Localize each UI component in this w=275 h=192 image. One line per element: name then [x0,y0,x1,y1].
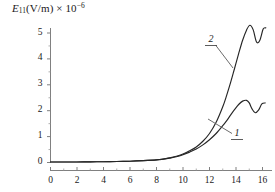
x-axis-tick-label: 12 [203,175,217,185]
x-axis-tick-label: 4 [97,175,111,185]
curve-label-2: 2 [206,33,216,44]
data-curves [51,25,266,162]
chart-figure: E11(V/m) × 10−6 012345 0246810121416 2 1 [0,0,275,192]
y-axis-tick-label: 2 [29,104,43,114]
curve-label-1: 1 [232,127,242,138]
x-axis-tick-label: 6 [123,175,137,185]
x-axis-tick-label: 10 [176,175,190,185]
y-axis-tick-label: 5 [29,27,43,37]
y-axis-tick-label: 4 [29,52,43,62]
y-axis-tick-label: 0 [29,156,43,166]
axis-lines [50,28,272,171]
x-axis-tick-label: 2 [70,175,84,185]
x-axis-tick-label: 14 [229,175,243,185]
x-axis-tick-label: 0 [44,175,58,185]
y-axis-tick-label: 1 [29,130,43,140]
x-axis-tick-label: 8 [150,175,164,185]
leader-line-series-2 [216,45,234,68]
x-axis-ticks [51,167,263,171]
data-curve-2 [51,25,266,162]
y-axis-tick-label: 3 [29,78,43,88]
x-axis-tick-label: 16 [256,175,270,185]
y-axis-ticks [47,33,51,163]
